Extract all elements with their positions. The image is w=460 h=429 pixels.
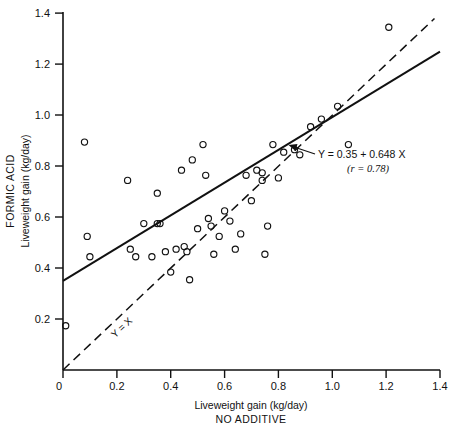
y-tick-label-1.4: 1.4 [35,7,50,19]
x-tick-label-0.4: 0.4 [163,380,178,392]
x-axis-title: Liveweight gain (kg/day) [194,399,307,411]
data-point [87,254,93,260]
data-point [248,198,254,204]
data-point [81,139,87,145]
data-point [208,223,214,229]
data-point [173,246,179,252]
y-axis-tick-labels: 1.4 1.2 1.0 0.8 0.6 0.4 0.2 [35,7,50,325]
data-point [203,172,209,178]
regression-equation-label: Y = 0.35 + 0.648 X [318,148,405,160]
regression-annotation: Y = 0.35 + 0.648 X (r = 0.78) [289,144,406,175]
data-point [200,142,206,148]
x-tick-label-0: 0 [56,380,62,392]
x-tick-label-1.2: 1.2 [378,380,393,392]
scatter-plot-figure: 1.4 1.2 1.0 0.8 0.6 0.4 0.2 0 0.2 0.4 0.… [0,0,460,429]
correlation-coefficient-label: (r = 0.78) [347,163,389,175]
y-tick-label-0.6: 0.6 [35,211,50,223]
data-point [265,223,271,229]
data-point [189,157,195,163]
data-point [297,152,303,158]
x-tick-label-0.2: 0.2 [109,380,124,392]
x-tick-label-0.8: 0.8 [271,380,286,392]
data-point [232,246,238,252]
identity-line [63,19,435,371]
data-point [262,251,268,257]
data-point [168,269,174,275]
data-point [162,249,168,255]
data-point [141,221,147,227]
data-point [227,218,233,224]
data-point [386,24,392,30]
identity-line-label: Y = X [109,315,135,340]
data-points [63,24,392,329]
data-point [238,231,244,237]
data-point [216,233,222,239]
y-tick-label-0.4: 0.4 [35,262,50,274]
data-point [125,177,131,183]
y-tick-label-0.8: 0.8 [35,160,50,172]
data-point [184,249,190,255]
data-point [259,170,265,176]
x-axis-tick-labels: 0 0.2 0.4 0.6 0.8 1.0 1.2 1.4 [56,380,448,392]
data-point [318,116,324,122]
data-point [275,175,281,181]
y-axis-title: Liveweight gain (kg/day) [19,134,31,247]
data-point [84,233,90,239]
data-point [187,277,193,283]
data-point [154,190,160,196]
data-point [205,215,211,221]
data-point [281,149,287,155]
x-tick-label-1.0: 1.0 [325,380,340,392]
data-point [149,254,155,260]
data-point [270,142,276,148]
x-axis-subtitle: NO ADDITIVE [216,413,287,425]
data-point [133,254,139,260]
data-point [243,172,249,178]
data-point [308,124,314,130]
x-tick-label-1.4: 1.4 [432,380,447,392]
data-point [178,167,184,173]
x-axis-ticks [63,370,440,378]
data-point [222,208,228,214]
data-point [127,246,133,252]
data-point [195,226,201,232]
data-point [335,103,341,109]
y-axis-ticks [55,13,63,319]
y-tick-label-1.2: 1.2 [35,58,50,70]
data-point [345,142,351,148]
y-tick-label-0.2: 0.2 [35,313,50,325]
x-tick-label-0.6: 0.6 [217,380,232,392]
chart-svg: 1.4 1.2 1.0 0.8 0.6 0.4 0.2 0 0.2 0.4 0.… [0,0,460,429]
y-axis-title-group: FORMIC ACID [4,154,16,227]
data-point [211,251,217,257]
y-tick-label-1.0: 1.0 [35,109,50,121]
